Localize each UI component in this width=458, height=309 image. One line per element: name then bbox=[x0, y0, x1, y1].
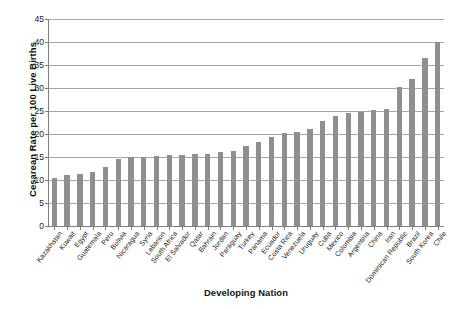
bar bbox=[243, 146, 248, 227]
y-tick-label: 0 bbox=[39, 221, 44, 231]
bar bbox=[179, 155, 184, 226]
y-tick-label: 25 bbox=[34, 106, 44, 116]
bar bbox=[320, 121, 325, 226]
x-axis-line bbox=[48, 226, 444, 227]
bar bbox=[90, 172, 95, 226]
bar bbox=[435, 42, 440, 226]
bar bbox=[371, 110, 376, 226]
bar bbox=[154, 156, 159, 226]
bar bbox=[205, 154, 210, 226]
bar bbox=[52, 178, 57, 226]
bar bbox=[294, 132, 299, 226]
bar bbox=[282, 133, 287, 226]
bar bbox=[358, 112, 363, 226]
bar bbox=[128, 157, 133, 226]
plot-area: 051015202530354045 bbox=[48, 19, 444, 227]
x-axis-tick-labels: KazakhstanKuwaitEgyptGuatemalaPeruBolivi… bbox=[48, 230, 458, 288]
y-tick-label: 40 bbox=[34, 37, 44, 47]
bar bbox=[103, 167, 108, 226]
bar bbox=[77, 174, 82, 226]
cesarean-rate-bar-chart: Cesarean Rate per 100 Live Births 051015… bbox=[0, 0, 458, 309]
bar bbox=[116, 159, 121, 226]
bar bbox=[231, 151, 236, 226]
y-axis-line bbox=[48, 19, 49, 227]
bar bbox=[167, 155, 172, 226]
bar bbox=[384, 109, 389, 226]
bar bbox=[346, 113, 351, 226]
bar bbox=[218, 152, 223, 226]
bar-series bbox=[48, 19, 444, 227]
bar bbox=[256, 142, 261, 226]
y-tick-label: 45 bbox=[34, 14, 44, 24]
y-tick-label: 15 bbox=[34, 152, 44, 162]
bar bbox=[307, 129, 312, 226]
bar bbox=[192, 154, 197, 226]
y-tick-label: 20 bbox=[34, 129, 44, 139]
x-tick-label: Chile bbox=[432, 230, 448, 248]
y-tick-label: 30 bbox=[34, 83, 44, 93]
bar bbox=[269, 137, 274, 226]
y-tick-label: 5 bbox=[39, 198, 44, 208]
bar bbox=[333, 116, 338, 226]
bar bbox=[141, 157, 146, 226]
bar bbox=[409, 79, 414, 226]
bar bbox=[422, 58, 427, 226]
y-tick-label: 10 bbox=[34, 175, 44, 185]
x-axis-title: Developing Nation bbox=[48, 287, 444, 298]
bar bbox=[397, 87, 402, 226]
bar bbox=[64, 175, 69, 226]
y-tick-label: 35 bbox=[34, 60, 44, 70]
